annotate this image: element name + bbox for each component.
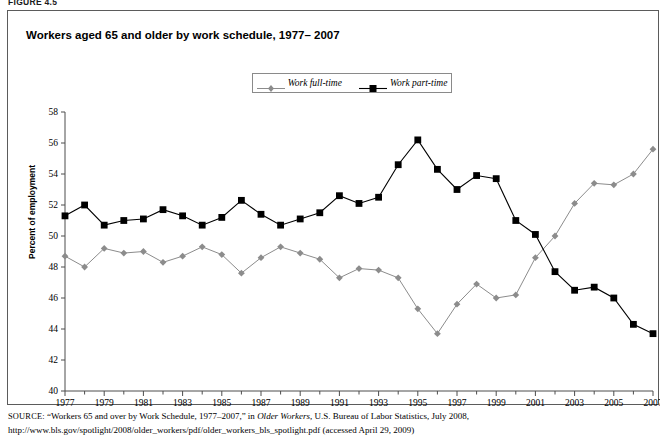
- svg-text:1995: 1995: [408, 398, 427, 406]
- figure-frame: Workers aged 65 and older by work schedu…: [7, 10, 659, 405]
- svg-text:1977: 1977: [56, 398, 75, 406]
- y-axis-title: Percent of employment: [27, 152, 37, 272]
- svg-text:50: 50: [49, 231, 59, 241]
- svg-text:54: 54: [49, 169, 59, 179]
- svg-text:1993: 1993: [369, 398, 388, 406]
- svg-text:2001: 2001: [526, 398, 545, 406]
- svg-text:40: 40: [49, 386, 59, 396]
- svg-text:2005: 2005: [604, 398, 623, 406]
- svg-text:56: 56: [49, 138, 59, 148]
- svg-text:1997: 1997: [448, 398, 467, 406]
- svg-text:48: 48: [49, 262, 59, 272]
- figure-number-label: FIGURE 4.5: [8, 0, 57, 7]
- plot-area: 4042444648505254565819771979198119831985…: [8, 11, 660, 406]
- svg-text:1987: 1987: [252, 398, 271, 406]
- figure-page: FIGURE 4.5 Workers aged 65 and older by …: [0, 0, 666, 440]
- svg-text:44: 44: [49, 324, 59, 334]
- svg-text:1983: 1983: [173, 398, 192, 406]
- svg-text:2007: 2007: [644, 398, 661, 406]
- source-text-before: “Workers 65 and over by Work Schedule, 1…: [45, 411, 257, 421]
- source-prefix: SOURCE:: [8, 412, 45, 421]
- svg-text:1999: 1999: [487, 398, 506, 406]
- svg-text:1989: 1989: [291, 398, 310, 406]
- source-note: SOURCE: “Workers 65 and over by Work Sch…: [8, 410, 658, 436]
- source-italic-title: Older Workers: [257, 411, 310, 421]
- svg-text:46: 46: [49, 293, 59, 303]
- line-chart-svg: 4042444648505254565819771979198119831985…: [8, 11, 660, 406]
- svg-text:1979: 1979: [95, 398, 114, 406]
- svg-text:42: 42: [49, 355, 59, 365]
- svg-text:1985: 1985: [212, 398, 231, 406]
- svg-text:1981: 1981: [134, 398, 153, 406]
- svg-text:1991: 1991: [330, 398, 349, 406]
- svg-text:2003: 2003: [565, 398, 584, 406]
- svg-text:52: 52: [49, 200, 59, 210]
- svg-text:58: 58: [49, 107, 59, 117]
